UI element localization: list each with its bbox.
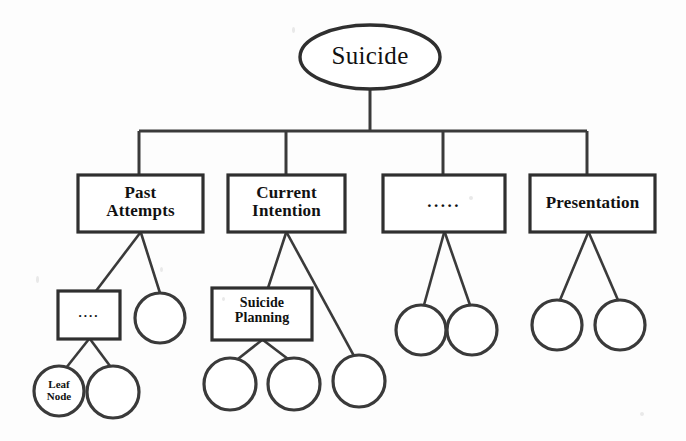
scan-speck (640, 412, 644, 416)
node-past-ellipsis-box[interactable] (58, 291, 120, 339)
node-current-circle-a[interactable] (333, 355, 385, 407)
node-ellipsis-circle-a[interactable] (396, 305, 446, 355)
scan-speck (292, 27, 295, 33)
node-root-suicide[interactable] (300, 25, 440, 89)
node-past-leaf-circle[interactable] (87, 366, 139, 418)
tree-diagram: Suicide Past Attempts Current Intention … (0, 0, 686, 441)
node-current-intention[interactable] (228, 175, 345, 232)
diagram-canvas-svg (0, 0, 686, 441)
edge-past-attempts-to-circle (141, 233, 160, 293)
node-leaf-node[interactable] (34, 366, 84, 416)
node-ellipsis-category[interactable] (383, 175, 505, 232)
edge-past-attempts-to-ellipsis-box (96, 233, 140, 291)
edge-presentation-to-circle-b (589, 233, 618, 300)
node-presentation[interactable] (530, 175, 655, 232)
node-past-circle-a[interactable] (135, 293, 185, 343)
edge-current-intention-to-planning (268, 233, 286, 288)
edge-ellipsis-category-to-circle-b (445, 233, 470, 305)
edge-planning-to-circle-a (238, 340, 262, 359)
edge-ellipsis-box-to-leaf-node (66, 339, 89, 368)
edge-planning-to-circle-b (263, 340, 288, 359)
node-ellipsis-circle-b[interactable] (447, 305, 497, 355)
edge-ellipsis-category-to-circle-a (424, 233, 444, 305)
edge-ellipsis-box-to-circle (90, 339, 110, 366)
scan-speck (222, 297, 225, 301)
node-planning-circle-a[interactable] (204, 358, 256, 410)
scan-speck (469, 196, 473, 200)
node-presentation-circle-b[interactable] (595, 300, 645, 350)
scan-speck (36, 276, 39, 283)
node-suicide-planning[interactable] (212, 288, 312, 340)
edge-presentation-to-circle-a (560, 233, 588, 300)
node-planning-circle-b[interactable] (268, 358, 320, 410)
scan-speck (160, 267, 163, 272)
node-past-attempts[interactable] (78, 175, 203, 232)
node-presentation-circle-a[interactable] (532, 300, 582, 350)
